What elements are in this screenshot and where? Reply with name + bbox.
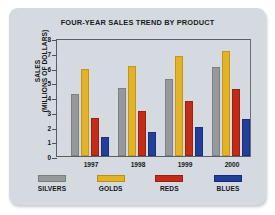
bar-golds-1999 bbox=[175, 56, 183, 156]
bar-golds-1998 bbox=[128, 66, 136, 156]
bar-group bbox=[118, 40, 160, 156]
legend-item-reds[interactable]: REDS bbox=[146, 175, 192, 192]
legend-label-golds: GOLDS bbox=[99, 185, 123, 192]
plot-area: 012345678 bbox=[56, 39, 251, 157]
bar-golds-2000 bbox=[222, 51, 230, 156]
y-axis-tick-label: 7 bbox=[47, 52, 51, 58]
y-axis-tick bbox=[52, 158, 57, 159]
x-axis-label-2000: 2000 bbox=[212, 161, 252, 168]
y-axis-tick-label: 4 bbox=[47, 96, 51, 102]
bar-group bbox=[165, 40, 207, 156]
bar-silvers-1997 bbox=[71, 94, 79, 156]
y-axis-tick-label: 6 bbox=[47, 66, 51, 72]
bar-group bbox=[71, 40, 113, 156]
x-axis-label-1998: 1998 bbox=[118, 161, 158, 168]
legend-label-silvers: SILVERS bbox=[38, 185, 66, 192]
legend-label-reds: REDS bbox=[160, 185, 179, 192]
y-axis-title-line-1: SALES bbox=[34, 60, 41, 82]
plot-inner bbox=[57, 40, 250, 156]
y-axis-tick bbox=[52, 55, 57, 56]
bar-blues-1998 bbox=[148, 132, 156, 156]
bar-blues-2000 bbox=[242, 119, 250, 156]
y-axis-tick-label: 2 bbox=[47, 125, 51, 131]
bar-blues-1997 bbox=[101, 137, 109, 156]
bar-reds-1997 bbox=[91, 118, 99, 156]
bar-silvers-1998 bbox=[118, 88, 126, 156]
legend-swatch-silvers bbox=[38, 175, 66, 182]
y-axis-tick bbox=[52, 129, 57, 130]
bar-silvers-2000 bbox=[212, 67, 220, 156]
x-axis-label-1999: 1999 bbox=[165, 161, 205, 168]
y-axis-tick bbox=[52, 70, 57, 71]
bar-group bbox=[212, 40, 254, 156]
legend-item-silvers[interactable]: SILVERS bbox=[29, 175, 75, 192]
y-axis-tick-label: 0 bbox=[47, 155, 51, 161]
bar-reds-1998 bbox=[138, 111, 146, 156]
bar-blues-1999 bbox=[195, 127, 203, 156]
y-axis-tick-label: 1 bbox=[47, 140, 51, 146]
y-axis-tick-label: 5 bbox=[47, 81, 51, 87]
legend-swatch-reds bbox=[155, 175, 183, 182]
legend-label-blues: BLUES bbox=[217, 185, 240, 192]
y-axis-tick-label: 3 bbox=[47, 111, 51, 117]
legend-item-blues[interactable]: BLUES bbox=[205, 175, 251, 192]
bar-golds-1997 bbox=[81, 69, 89, 156]
x-axis-label-1997: 1997 bbox=[71, 161, 111, 168]
y-axis-tick bbox=[52, 143, 57, 144]
y-axis-tick bbox=[52, 114, 57, 115]
bar-reds-2000 bbox=[232, 89, 240, 156]
legend-swatch-blues bbox=[214, 175, 242, 182]
bar-silvers-1999 bbox=[165, 79, 173, 156]
chart-card: FOUR-YEAR SALES TREND BY PRODUCT SALES (… bbox=[9, 8, 266, 205]
bar-reds-1999 bbox=[185, 101, 193, 156]
legend-item-golds[interactable]: GOLDS bbox=[88, 175, 134, 192]
y-axis-tick bbox=[52, 40, 57, 41]
chart-legend: SILVERSGOLDSREDSBLUES bbox=[29, 175, 251, 192]
y-axis-tick-label: 8 bbox=[47, 37, 51, 43]
y-axis-tick bbox=[52, 84, 57, 85]
y-axis-tick bbox=[52, 99, 57, 100]
legend-swatch-golds bbox=[97, 175, 125, 182]
